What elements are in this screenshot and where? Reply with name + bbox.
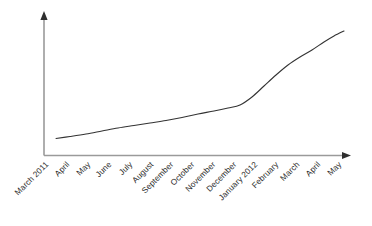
x-axis-arrowhead <box>342 152 351 159</box>
y-axis <box>40 11 47 156</box>
y-axis-arrowhead <box>40 11 47 20</box>
data-series-line <box>56 31 344 139</box>
x-axis <box>44 152 351 159</box>
chart-canvas <box>0 0 372 226</box>
line-chart: March 2011AprilMayJuneJulyAugustSeptembe… <box>0 0 372 226</box>
